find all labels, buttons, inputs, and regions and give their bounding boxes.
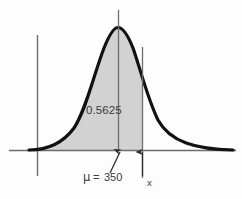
- mean-equals-label: =: [93, 171, 99, 183]
- x-variable-label: x: [147, 177, 152, 188]
- mean-symbol-label: μ: [83, 170, 91, 184]
- shaded-area-label: 0.5625: [86, 104, 122, 116]
- shaded-probability-region: [36, 27, 232, 150]
- normal-distribution-figure: 0.5625 μ = 350 x: [0, 0, 242, 199]
- mean-value-label: 350: [104, 171, 122, 183]
- distribution-chart-svg: 0.5625 μ = 350 x: [0, 0, 242, 199]
- mean-pointer-arrow: [110, 152, 120, 173]
